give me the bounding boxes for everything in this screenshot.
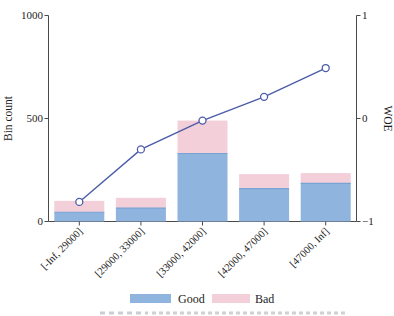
- right-tick-label-1: 0: [362, 112, 368, 124]
- legend-swatch-good: [130, 294, 171, 303]
- x-tick-label-3: [42000, 47000]: [216, 226, 270, 280]
- woe-marker-2: [199, 117, 206, 124]
- left-tick-label-0: 0: [38, 215, 44, 227]
- legend-label-bad: Bad: [255, 292, 274, 306]
- woe-marker-1: [137, 146, 144, 153]
- left-tick-label-1: 500: [27, 112, 44, 124]
- bars-group: [54, 121, 350, 222]
- right-axis-title: WOE: [382, 105, 394, 131]
- x-tick-label-1: [29000, 33000]: [93, 226, 147, 280]
- legend-label-good: Good: [178, 292, 205, 306]
- bar-good-2: [178, 154, 228, 222]
- x-tick-labels-group: [-Inf, 29000][29000, 33000][33000, 42000…: [39, 226, 332, 280]
- bar-good-3: [239, 189, 289, 222]
- bar-good-4: [301, 183, 351, 221]
- bar-bad-1: [116, 198, 166, 208]
- bar-bad-2: [178, 121, 228, 154]
- woe-marker-0: [76, 198, 83, 205]
- woe-marker-3: [261, 93, 268, 100]
- x-tick-label-0: [-Inf, 29000]: [39, 226, 85, 272]
- woe-binning-figure: 05001000−101 [-Inf, 29000][29000, 33000]…: [0, 0, 394, 316]
- left-axis-title: Bin count: [2, 95, 14, 141]
- bar-bad-4: [301, 173, 351, 183]
- bar-good-1: [116, 208, 166, 221]
- legend-swatch-bad: [212, 294, 250, 303]
- legend: Good Bad: [130, 292, 274, 306]
- x-tick-label-2: [33000, 42000]: [154, 226, 208, 280]
- bar-bad-3: [239, 174, 289, 188]
- bar-good-0: [54, 212, 104, 221]
- right-tick-label-0: −1: [362, 215, 374, 227]
- x-tick-label-4: [47000, Inf]: [287, 226, 331, 270]
- right-tick-label-2: 1: [362, 9, 368, 21]
- woe-marker-4: [322, 65, 329, 72]
- left-tick-label-2: 1000: [21, 9, 44, 21]
- chart-canvas: 05001000−101 [-Inf, 29000][29000, 33000]…: [0, 0, 394, 316]
